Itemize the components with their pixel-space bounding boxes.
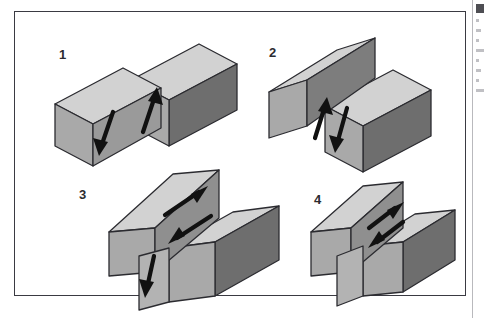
panel-label-4: 4 xyxy=(314,193,321,206)
panel-label-2: 2 xyxy=(269,46,276,59)
clipped-text-fragment xyxy=(476,4,484,13)
fault-block-diagram-3 xyxy=(107,160,297,310)
block-diagram-svg-4 xyxy=(307,172,472,307)
clipped-text-fragment xyxy=(476,89,484,92)
block-diagram-svg-3 xyxy=(107,160,297,310)
figure-frame: 1 xyxy=(14,11,466,296)
fault-block-diagram-2 xyxy=(263,26,458,166)
clipped-text-fragment xyxy=(476,29,481,32)
clipped-text-column xyxy=(476,4,489,124)
page-canvas: 1 xyxy=(0,0,489,318)
panel-label-3: 3 xyxy=(79,188,86,201)
clipped-text-fragment xyxy=(476,69,481,72)
fault-block-diagram-1 xyxy=(51,32,241,172)
clipped-text-fragment xyxy=(476,49,484,52)
block-diagram-svg-2 xyxy=(263,26,458,166)
clipped-text-fragment xyxy=(476,39,479,42)
block-diagram-svg-1 xyxy=(51,32,241,172)
fault-block-diagram-4 xyxy=(307,172,472,307)
front-block-lower-nose xyxy=(337,246,363,306)
clipped-text-fragment xyxy=(476,59,479,62)
clipped-text-fragment xyxy=(476,19,479,22)
clipped-text-fragment xyxy=(476,79,479,82)
column-rule xyxy=(472,0,473,318)
panel-label-1: 1 xyxy=(59,48,66,61)
